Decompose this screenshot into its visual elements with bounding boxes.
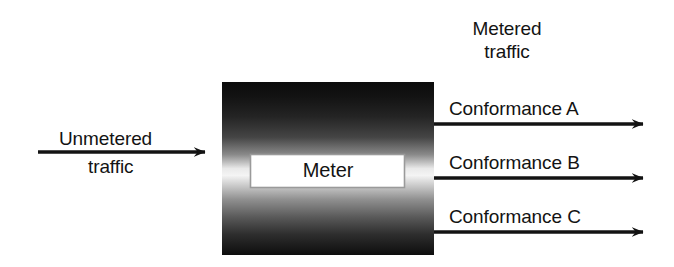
unmetered-label-line-1: Unmetered [59, 127, 152, 150]
metered-traffic-label: Metered traffic [448, 17, 566, 63]
meter-conformance-diagram: Metered traffic Unmetered traffic Confor… [0, 0, 674, 267]
conformance-c-label: Conformance C [449, 205, 581, 228]
meter-block-label: Meter [251, 159, 405, 182]
conformance-a-label: Conformance A [449, 97, 579, 120]
unmetered-label-line-2: traffic [88, 155, 133, 178]
conformance-b-label: Conformance B [449, 151, 580, 174]
metered-traffic-line-2: traffic [484, 41, 529, 62]
metered-traffic-line-1: Metered [472, 18, 541, 39]
